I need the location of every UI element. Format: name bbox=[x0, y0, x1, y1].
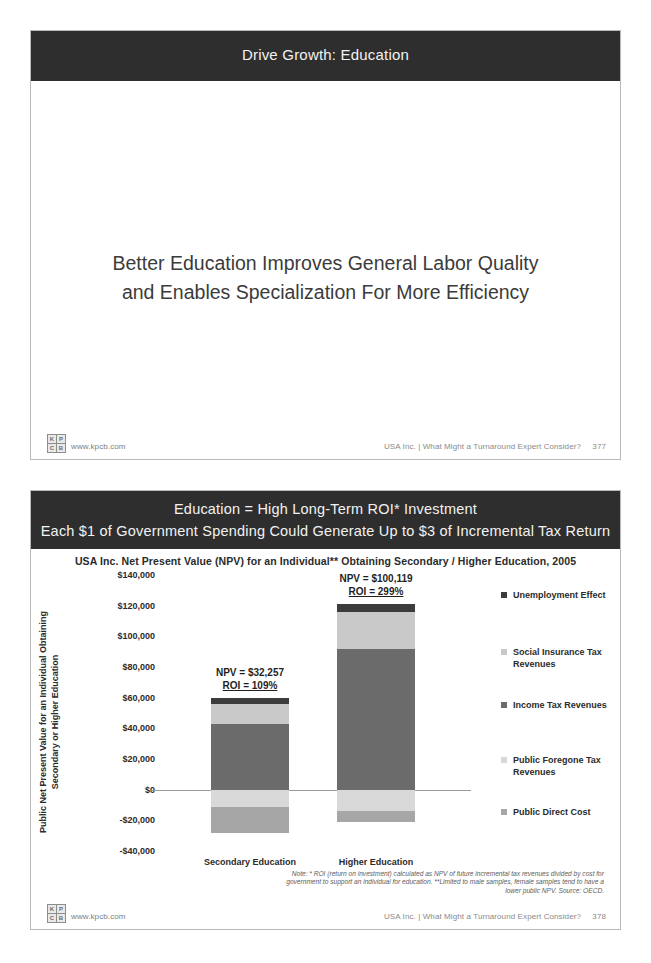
bar-segment[interactable] bbox=[211, 698, 289, 704]
y-axis-tick-label: $100,000 bbox=[117, 631, 155, 641]
legend-item-label: Public Direct Cost bbox=[513, 807, 591, 817]
slide-1: Drive Growth: Education Better Education… bbox=[30, 30, 621, 460]
y-axis-tick-label: $80,000 bbox=[122, 662, 155, 672]
legend-item[interactable]: Public Foregone Tax Revenues bbox=[501, 755, 621, 778]
bar-segment[interactable] bbox=[211, 790, 289, 807]
y-axis-title-line-1: Public Net Present Value for an Individu… bbox=[37, 597, 49, 847]
bar-segment[interactable] bbox=[337, 604, 415, 612]
bar-segment[interactable] bbox=[337, 649, 415, 790]
kpcb-logo-letter-p: P bbox=[57, 435, 65, 443]
kpcb-logo-letter-b: B bbox=[57, 444, 65, 452]
legend-swatch-icon bbox=[501, 702, 507, 708]
kpcb-logo-letter-p: P bbox=[57, 905, 65, 913]
y-axis-tick-label: -$20,000 bbox=[119, 815, 155, 825]
roi-value-label: ROI = 299% bbox=[296, 585, 456, 598]
legend-swatch-icon bbox=[501, 592, 507, 598]
slide-2-header-line-2: Each $1 of Government Spending Could Gen… bbox=[31, 520, 620, 542]
bar-segment[interactable] bbox=[337, 612, 415, 649]
y-axis-tick-label: $60,000 bbox=[122, 693, 155, 703]
legend-swatch-icon bbox=[501, 757, 507, 763]
roi-value-label: ROI = 109% bbox=[170, 679, 330, 692]
chart-plot-region: NPV = $32,257ROI = 109%Secondary Educati… bbox=[159, 575, 449, 851]
legend-swatch-icon bbox=[501, 809, 507, 815]
chart-bar[interactable] bbox=[211, 575, 289, 851]
footnote-line-2: government to support an individual for … bbox=[184, 878, 604, 886]
kpcb-logo-letter-b: B bbox=[57, 914, 65, 922]
chart-area: Public Net Present Value for an Individu… bbox=[31, 575, 621, 875]
presentation-page: Drive Growth: Education Better Education… bbox=[0, 0, 651, 963]
bar-npv-roi-annotation: NPV = $100,119ROI = 299% bbox=[296, 572, 456, 598]
kpcb-logo-letter-c: C bbox=[48, 444, 56, 452]
legend-item[interactable]: Income Tax Revenues bbox=[501, 700, 621, 712]
npv-value-label: NPV = $32,257 bbox=[170, 666, 330, 679]
bar-segment[interactable] bbox=[337, 790, 415, 811]
legend-item-label: Public Foregone Tax Revenues bbox=[513, 755, 601, 777]
y-axis-ticks: $140,000$120,000$100,000$80,000$60,000$4… bbox=[91, 575, 155, 851]
bar-segment[interactable] bbox=[211, 704, 289, 724]
bar-segment[interactable] bbox=[337, 811, 415, 822]
footnote-line-3: lower public NPV. Source: OECD. bbox=[184, 887, 604, 895]
kpcb-logo-letter-c: C bbox=[48, 914, 56, 922]
zero-baseline bbox=[151, 790, 471, 791]
kpcb-website-link[interactable]: www.kpcb.com bbox=[71, 442, 126, 451]
npv-value-label: NPV = $100,119 bbox=[296, 572, 456, 585]
y-axis-tick-label: $140,000 bbox=[117, 570, 155, 580]
y-axis-tick-label: $120,000 bbox=[117, 601, 155, 611]
legend-item[interactable]: Public Direct Cost bbox=[501, 807, 621, 819]
slide-1-footer: K P C B www.kpcb.com USA Inc. | What Mig… bbox=[31, 433, 620, 453]
legend-item-label: Unemployment Effect bbox=[513, 590, 606, 600]
bar-npv-roi-annotation: NPV = $32,257ROI = 109% bbox=[170, 666, 330, 692]
slide-1-header-title: Drive Growth: Education bbox=[31, 44, 620, 65]
kpcb-logo-icon: K P C B bbox=[47, 434, 66, 453]
y-axis-tick-label: $20,000 bbox=[122, 754, 155, 764]
slide-1-deck-title: USA Inc. | What Might a Turnaround Exper… bbox=[384, 442, 581, 451]
legend-swatch-icon bbox=[501, 649, 507, 655]
kpcb-logo-icon: K P C B bbox=[47, 904, 66, 923]
footnote-line-1: Note: * ROI (return on investment) calcu… bbox=[184, 870, 604, 878]
slide-1-statement-line-2: and Enables Specialization For More Effi… bbox=[31, 278, 620, 307]
slide-1-page-number: 377 bbox=[592, 442, 606, 451]
kpcb-logo-letter-k: K bbox=[48, 435, 56, 443]
slide-1-footer-right: USA Inc. | What Might a Turnaround Exper… bbox=[384, 442, 606, 451]
chart-bar[interactable] bbox=[337, 575, 415, 851]
x-axis-category-label: Higher Education bbox=[301, 857, 451, 867]
bar-segment[interactable] bbox=[211, 724, 289, 790]
legend-item-label: Social Insurance Tax Revenues bbox=[513, 647, 602, 669]
legend-item[interactable]: Unemployment Effect bbox=[501, 590, 621, 602]
slide-2-page-number: 378 bbox=[592, 912, 606, 921]
legend-item[interactable]: Social Insurance Tax Revenues bbox=[501, 647, 621, 670]
y-axis-title: Public Net Present Value for an Individu… bbox=[37, 597, 63, 847]
y-axis-tick-label: -$40,000 bbox=[119, 846, 155, 856]
slide-2: Education = High Long-Term ROI* Investme… bbox=[30, 490, 621, 930]
slide-2-header: Education = High Long-Term ROI* Investme… bbox=[31, 491, 620, 549]
kpcb-website-link[interactable]: www.kpcb.com bbox=[71, 912, 126, 921]
slide-2-deck-title: USA Inc. | What Might a Turnaround Exper… bbox=[384, 912, 581, 921]
slide-2-footer-right: USA Inc. | What Might a Turnaround Exper… bbox=[384, 912, 606, 921]
y-axis-tick-label: $40,000 bbox=[122, 723, 155, 733]
slide-2-header-line-1: Education = High Long-Term ROI* Investme… bbox=[31, 498, 620, 520]
legend-item-label: Income Tax Revenues bbox=[513, 700, 607, 710]
chart-title: USA Inc. Net Present Value (NPV) for an … bbox=[31, 555, 620, 567]
bar-segment[interactable] bbox=[211, 807, 289, 833]
slide-1-statement-line-1: Better Education Improves General Labor … bbox=[31, 249, 620, 278]
slide-1-statement: Better Education Improves General Labor … bbox=[31, 249, 620, 307]
chart-footnote: Note: * ROI (return on investment) calcu… bbox=[184, 870, 604, 895]
slide-2-footer: K P C B www.kpcb.com USA Inc. | What Mig… bbox=[31, 903, 620, 923]
kpcb-logo-letter-k: K bbox=[48, 905, 56, 913]
y-axis-title-line-2: Secondary or Higher Education bbox=[49, 597, 61, 847]
slide-1-header: Drive Growth: Education bbox=[31, 31, 620, 81]
